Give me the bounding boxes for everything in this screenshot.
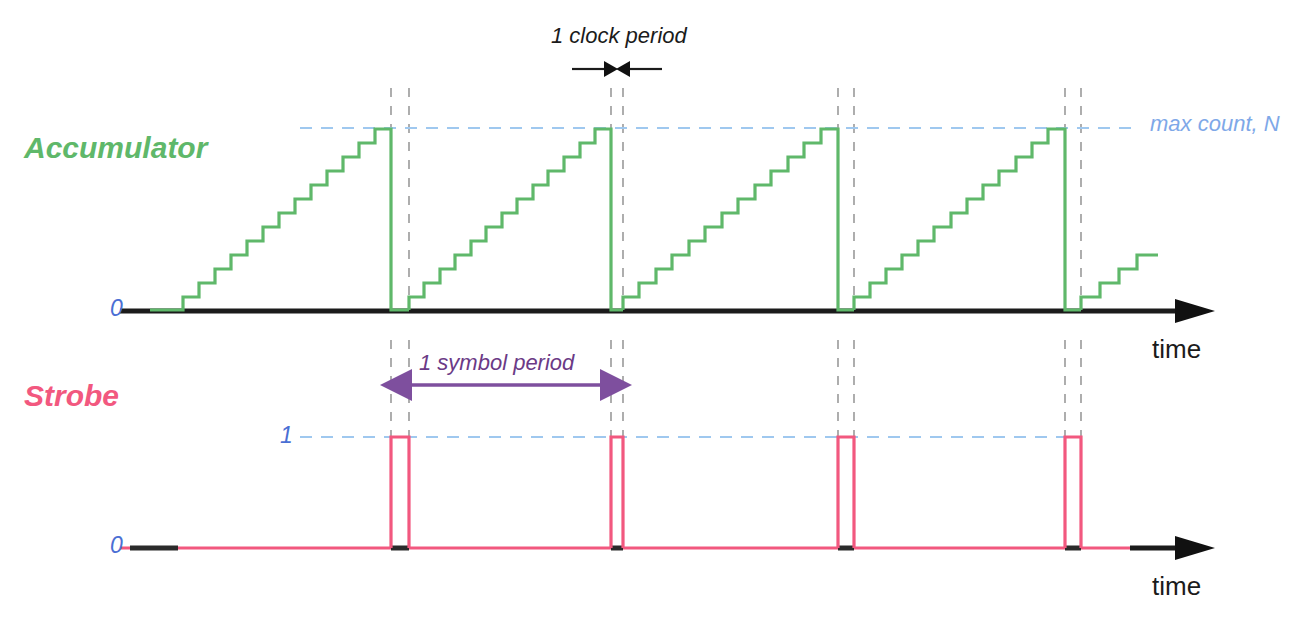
accumulator-waveform	[150, 129, 1158, 310]
strobe-pulse	[838, 437, 854, 548]
accumulator-signal-label: Accumulator	[24, 133, 207, 163]
dashed-vertical-guides	[391, 88, 1081, 548]
strobe-waveform	[391, 437, 1081, 548]
accumulator-partial-ramp	[1081, 255, 1158, 310]
accumulator-ramp	[409, 129, 623, 310]
timing-diagram-figure: Accumulator Strobe 0 1 0 max count, N 1 …	[0, 0, 1309, 626]
strobe-pulse	[1065, 437, 1081, 548]
strobe-zero-label: 0	[110, 534, 123, 557]
strobe-time-axis-label: time	[1152, 573, 1201, 599]
accumulator-zero-label: 0	[110, 297, 123, 320]
clock-period-arrows	[572, 61, 662, 77]
strobe-signal-label: Strobe	[24, 381, 119, 411]
strobe-time-axis	[120, 536, 1215, 560]
strobe-one-label: 1	[280, 424, 293, 447]
accumulator-ramp	[854, 129, 1081, 310]
accumulator-time-axis-label: time	[1152, 336, 1201, 362]
clock-period-label: 1 clock period	[551, 25, 687, 47]
accumulator-ramp	[623, 129, 854, 310]
max-count-label: max count, N	[1150, 113, 1280, 135]
symbol-period-label: 1 symbol period	[419, 352, 574, 374]
strobe-pulse	[611, 437, 623, 548]
accumulator-time-axis	[120, 299, 1215, 323]
strobe-pulse	[391, 437, 409, 548]
timing-diagram-svg	[0, 0, 1309, 626]
